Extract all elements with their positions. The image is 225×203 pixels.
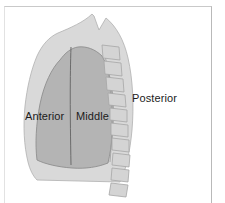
lung-diagram-svg (0, 0, 225, 203)
zone-label-anterior: Anterior (25, 110, 64, 122)
vertebra-segment (112, 138, 129, 152)
vertebra-segment (104, 61, 122, 76)
vertebra-segment (108, 93, 126, 107)
vertebra-segment (110, 108, 127, 122)
zone-label-middle: Middle (76, 110, 109, 122)
vertebra-segment (111, 123, 128, 137)
vertebra-segment (112, 153, 130, 167)
vertebra-segment (109, 183, 128, 197)
vertebra-segment (102, 45, 120, 60)
vertebra-segment (111, 168, 129, 182)
zone-label-posterior: Posterior (132, 92, 177, 104)
lung-zones-figure: Anterior Middle Posterior (0, 0, 225, 203)
vertebra-segment (106, 77, 124, 92)
